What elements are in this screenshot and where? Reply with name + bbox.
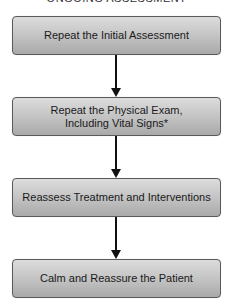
step-label: Repeat the Initial Assessment	[44, 29, 189, 42]
arrow-down-icon	[111, 169, 121, 178]
step-label-line1: Repeat the Physical Exam,	[50, 104, 182, 117]
connector-line	[115, 55, 117, 89]
arrow-connector-3	[115, 217, 117, 259]
arrow-down-icon	[111, 88, 121, 97]
step-calm-reassure: Calm and Reassure the Patient	[12, 259, 221, 298]
step-label: Calm and Reassure the Patient	[40, 272, 193, 285]
diagram-title: ONGOING ASSESSMENT	[0, 0, 233, 4]
connector-line	[115, 217, 117, 251]
step-label: Reassess Treatment and Interventions	[22, 191, 210, 204]
step-reassess-treatment: Reassess Treatment and Interventions	[12, 178, 221, 217]
step-repeat-physical-exam: Repeat the Physical Exam, Including Vita…	[12, 97, 221, 136]
arrow-connector-2	[115, 136, 117, 178]
step-label-line2: Including Vital Signs*	[50, 117, 182, 130]
arrow-connector-1	[115, 55, 117, 97]
connector-line	[115, 136, 117, 170]
arrow-down-icon	[111, 250, 121, 259]
step-repeat-initial-assessment: Repeat the Initial Assessment	[12, 16, 221, 55]
